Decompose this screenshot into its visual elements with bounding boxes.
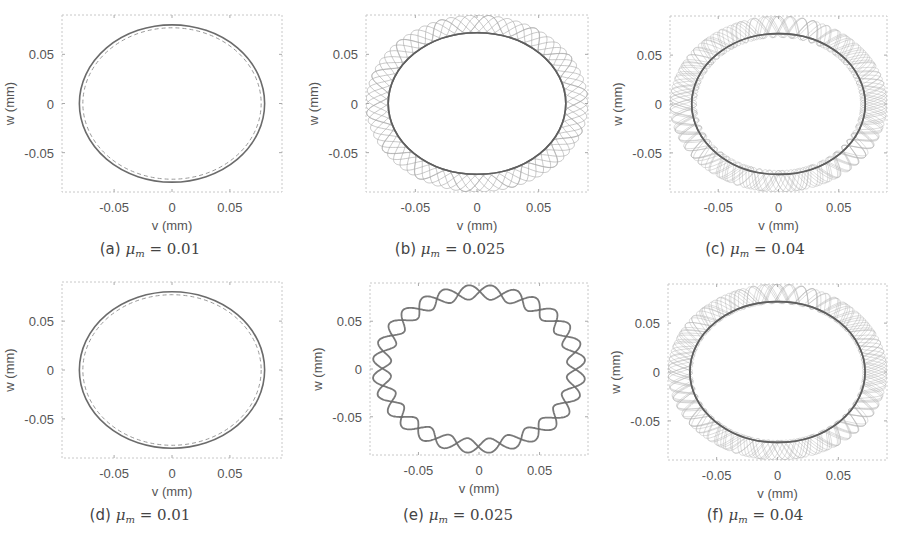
y-tick-label: 0 xyxy=(351,97,358,112)
x-tick-label: -0.05 xyxy=(401,200,431,215)
plot-c: -0.0500.05-0.0500.05v (mm)w (mm) xyxy=(600,0,905,268)
caption-letter: (b) xyxy=(395,240,416,258)
caption-f: (f) μm = 0.04 xyxy=(600,506,905,525)
plot-a: -0.0500.05-0.0500.05v (mm)w (mm) xyxy=(0,0,300,268)
trajectory-strand xyxy=(672,17,888,192)
x-tick-label: -0.05 xyxy=(702,468,732,483)
plot-f: -0.0500.05-0.0500.05v (mm)w (mm) xyxy=(600,270,905,538)
y-tick-label: -0.05 xyxy=(630,414,660,429)
x-tick-label: 0 xyxy=(473,200,480,215)
y-tick-label: 0 xyxy=(653,365,660,380)
x-axis-label: v (mm) xyxy=(152,218,192,233)
inner-orbit-curve xyxy=(690,302,865,443)
caption-a: (a) μm = 0.01 xyxy=(0,240,300,259)
caption-c: (c) μm = 0.04 xyxy=(600,240,905,259)
plot-e: -0.0500.05-0.0500.05v (mm)w (mm) xyxy=(300,270,600,538)
trajectory-strand xyxy=(366,17,588,191)
x-axis-label: v (mm) xyxy=(457,218,497,233)
plot-area xyxy=(668,284,887,460)
x-axis-label: v (mm) xyxy=(459,481,499,496)
x-tick-label: 0.05 xyxy=(826,468,851,483)
x-tick-label: -0.05 xyxy=(99,466,129,481)
y-tick-label: 0 xyxy=(47,97,54,112)
y-tick-label: 0.05 xyxy=(637,48,662,63)
y-tick-label: 0 xyxy=(47,363,54,378)
x-tick-label: 0.05 xyxy=(527,463,552,478)
x-tick-label: 0.05 xyxy=(826,200,851,215)
inner-orbit-curve xyxy=(388,33,566,175)
axes-box xyxy=(366,15,588,192)
axes-box xyxy=(62,15,282,192)
y-tick-label: 0.05 xyxy=(333,47,358,62)
y-tick-label: -0.05 xyxy=(24,412,54,427)
x-tick-label: -0.05 xyxy=(99,200,129,215)
caption-letter: (e) xyxy=(403,506,424,524)
x-tick-label: 0.05 xyxy=(217,200,242,215)
axes-box xyxy=(370,283,588,455)
trajectory-strand xyxy=(367,15,586,192)
x-tick-label: -0.05 xyxy=(703,200,733,215)
x-tick-label: 0 xyxy=(168,200,175,215)
caption-letter: (c) xyxy=(705,240,725,258)
y-tick-label: -0.05 xyxy=(632,146,662,161)
plot-area xyxy=(670,16,887,192)
inner-orbit-curve xyxy=(692,34,866,175)
plot-area xyxy=(366,15,588,192)
y-axis-label: w (mm) xyxy=(2,348,17,392)
y-tick-label: 0.05 xyxy=(29,47,54,62)
x-tick-label: 0 xyxy=(774,468,781,483)
y-axis-label: w (mm) xyxy=(2,82,17,126)
y-tick-label: 0.05 xyxy=(635,316,660,331)
plot-b: -0.0500.05-0.0500.05v (mm)w (mm) xyxy=(300,0,600,268)
subplot-a: -0.0500.05-0.0500.05v (mm)w (mm) (a) μm … xyxy=(0,0,300,268)
y-tick-label: -0.05 xyxy=(24,146,54,161)
plot-d: -0.0500.05-0.0500.05v (mm)w (mm) xyxy=(0,270,300,538)
axes-box xyxy=(62,282,282,458)
y-tick-label: 0 xyxy=(355,362,362,377)
plot-area xyxy=(79,25,264,182)
y-tick-label: 0.05 xyxy=(29,314,54,329)
y-tick-label: 0.05 xyxy=(337,314,362,329)
orbit-curve xyxy=(83,28,261,179)
y-axis-label: w (mm) xyxy=(610,82,625,126)
x-tick-label: 0 xyxy=(475,463,482,478)
subplot-b: -0.0500.05-0.0500.05v (mm)w (mm) (b) μm … xyxy=(300,0,600,268)
caption-d: (d) μm = 0.01 xyxy=(0,506,290,525)
x-tick-label: 0.05 xyxy=(217,466,242,481)
x-axis-label: v (mm) xyxy=(757,486,797,501)
x-axis-label: v (mm) xyxy=(758,218,798,233)
orbit-curve xyxy=(79,25,264,182)
subplot-f: -0.0500.05-0.0500.05v (mm)w (mm) (f) μm … xyxy=(600,270,905,538)
subplot-e: -0.0500.05-0.0500.05v (mm)w (mm) (e) μm … xyxy=(300,270,600,538)
caption-letter: (f) xyxy=(707,506,724,524)
x-axis-label: v (mm) xyxy=(152,484,192,499)
caption-letter: (a) xyxy=(100,240,121,258)
x-tick-label: 0 xyxy=(775,200,782,215)
subplot-c: -0.0500.05-0.0500.05v (mm)w (mm) (c) μm … xyxy=(600,0,905,268)
x-tick-label: -0.05 xyxy=(404,463,434,478)
trajectory-strand xyxy=(373,285,585,452)
subplot-d: -0.0500.05-0.0500.05v (mm)w (mm) (d) μm … xyxy=(0,270,300,538)
y-axis-label: w (mm) xyxy=(306,82,321,126)
y-axis-label: w (mm) xyxy=(310,347,325,391)
y-tick-label: -0.05 xyxy=(332,410,362,425)
caption-e: (e) μm = 0.025 xyxy=(308,506,608,525)
plot-area xyxy=(79,292,264,448)
y-tick-label: -0.05 xyxy=(328,146,358,161)
orbit-curve xyxy=(79,292,264,448)
x-tick-label: 0 xyxy=(168,466,175,481)
y-tick-label: 0 xyxy=(655,97,662,112)
trajectory-strand xyxy=(373,285,585,452)
y-axis-label: w (mm) xyxy=(608,350,623,394)
x-tick-label: 0.05 xyxy=(526,200,551,215)
caption-letter: (d) xyxy=(90,506,111,524)
orbit-curve xyxy=(83,295,261,446)
plot-area xyxy=(373,285,585,452)
caption-b: (b) μm = 0.025 xyxy=(300,240,600,259)
